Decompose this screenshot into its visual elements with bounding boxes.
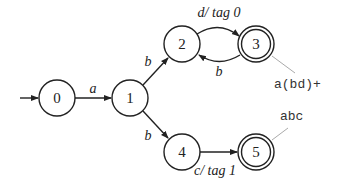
edge-label-3-2: b xyxy=(216,64,223,79)
annotation-regex-5: abc xyxy=(280,109,303,124)
state-label: 3 xyxy=(252,36,260,52)
edge-label-1-2: b xyxy=(145,54,152,69)
annotation-leader-5 xyxy=(272,128,288,140)
edge-label-0-1: a xyxy=(90,81,97,96)
state-1: 1 xyxy=(112,80,148,116)
state-label: 5 xyxy=(252,144,260,160)
edge-3-2 xyxy=(199,55,240,62)
automaton-diagram: 0 1 2 3 4 5 a b b d/ tag 0 b c/ tag 1 a(… xyxy=(0,0,351,188)
edge-label-4-5: c/ tag 1 xyxy=(194,163,236,178)
annotation-leader-3 xyxy=(272,56,295,73)
state-label: 4 xyxy=(178,144,186,160)
edge-label-2-3: d/ tag 0 xyxy=(198,5,241,20)
state-label: 1 xyxy=(126,90,134,106)
state-3-accepting: 3 xyxy=(238,26,274,62)
edge-label-1-4: b xyxy=(145,128,152,143)
state-5-accepting: 5 xyxy=(238,134,274,170)
state-label: 0 xyxy=(53,90,61,106)
edge-2-3 xyxy=(197,27,239,36)
state-label: 2 xyxy=(178,36,186,52)
annotation-regex-3: a(bd)+ xyxy=(274,77,321,92)
state-0: 0 xyxy=(39,80,75,116)
state-2: 2 xyxy=(164,26,200,62)
